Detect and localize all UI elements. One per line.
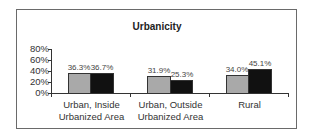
value-label: 36.7% — [87, 63, 117, 72]
category-label-urban-inside: Urban, Inside Urbanized Area — [52, 99, 131, 123]
bar-series1-rural — [226, 75, 249, 94]
y-tick-label: 20% — [30, 77, 49, 87]
x-tick — [209, 93, 210, 97]
chart-title: Urbanicity — [0, 21, 314, 32]
x-tick — [288, 93, 289, 97]
category-label-line: Urbanized Area — [52, 111, 131, 123]
bar-series1-urban-inside — [68, 73, 91, 94]
y-tick-label: 60% — [30, 55, 49, 65]
bar-series2-urban-inside — [90, 73, 114, 94]
x-tick — [130, 93, 131, 97]
category-label-line: Urbanized Area — [131, 111, 210, 123]
category-label-line: Urban, Inside — [52, 99, 131, 111]
category-label-line: Urban, Outside — [131, 99, 210, 111]
category-label-rural: Rural — [210, 99, 289, 111]
category-label-urban-outside: Urban, Outside Urbanized Area — [131, 99, 210, 123]
y-tick-label: 40% — [30, 66, 49, 76]
category-label-line: Rural — [210, 99, 289, 111]
value-label: 25.3% — [167, 70, 197, 79]
x-tick — [51, 93, 52, 97]
bar-series2-urban-outside — [170, 80, 193, 94]
y-tick-label: 0% — [35, 88, 49, 98]
y-tick-label: 80% — [30, 44, 49, 54]
value-label: 45.1% — [245, 59, 275, 68]
